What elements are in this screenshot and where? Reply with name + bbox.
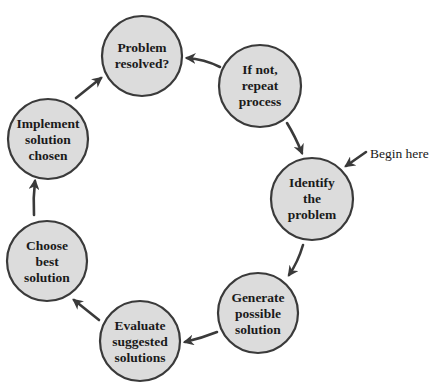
node-label-line: Evaluate bbox=[114, 318, 165, 333]
node-label-line: problem bbox=[288, 207, 337, 222]
node-label-line: Generate bbox=[231, 290, 284, 305]
node-identify-problem: Identify the problem bbox=[271, 158, 353, 240]
arrow-choose-to-implement bbox=[34, 181, 35, 215]
node-label-line: Choose bbox=[26, 238, 68, 253]
begin-here-label: Begin here bbox=[370, 146, 429, 161]
node-choose-best: Choose best solution bbox=[7, 221, 87, 301]
node-label-line: solution bbox=[24, 270, 70, 285]
arrow-repeat-to-resolved bbox=[187, 58, 220, 67]
node-label-line: solution bbox=[235, 322, 281, 337]
node-implement-solution: Implement solution chosen bbox=[8, 99, 88, 179]
node-label-line: suggested bbox=[112, 334, 168, 349]
arrow-repeat-to-identify bbox=[287, 123, 302, 153]
node-label-line: solution bbox=[25, 132, 71, 147]
node-repeat-process: If not, repeat process bbox=[219, 45, 301, 127]
node-label-line: process bbox=[239, 94, 282, 109]
node-problem-resolved: Problem resolved? bbox=[102, 16, 182, 96]
node-label-line: Implement bbox=[17, 116, 80, 131]
node-label-line: the bbox=[303, 191, 321, 206]
node-label-line: repeat bbox=[242, 78, 279, 93]
node-label-line: Identify bbox=[289, 175, 335, 190]
problem-solving-cycle-diagram: Begin here Problem resolved? If not, rep… bbox=[0, 0, 431, 387]
arrow-begin-to-identify bbox=[346, 152, 366, 166]
node-label-line: Problem bbox=[117, 40, 167, 55]
arrow-evaluate-to-choose bbox=[74, 300, 99, 320]
node-evaluate-solutions: Evaluate suggested solutions bbox=[100, 301, 180, 381]
arrow-identify-to-generate bbox=[289, 245, 303, 275]
node-label-line: chosen bbox=[28, 148, 67, 163]
arrow-implement-to-resolved bbox=[76, 78, 101, 98]
node-label-line: best bbox=[35, 254, 59, 269]
node-label-line: possible bbox=[235, 306, 281, 321]
node-generate-solution: Generate possible solution bbox=[218, 273, 298, 353]
node-label-line: resolved? bbox=[115, 56, 170, 71]
node-label-line: solutions bbox=[114, 350, 165, 365]
node-label-line: If not, bbox=[242, 62, 277, 77]
arrow-generate-to-evaluate bbox=[185, 332, 217, 342]
